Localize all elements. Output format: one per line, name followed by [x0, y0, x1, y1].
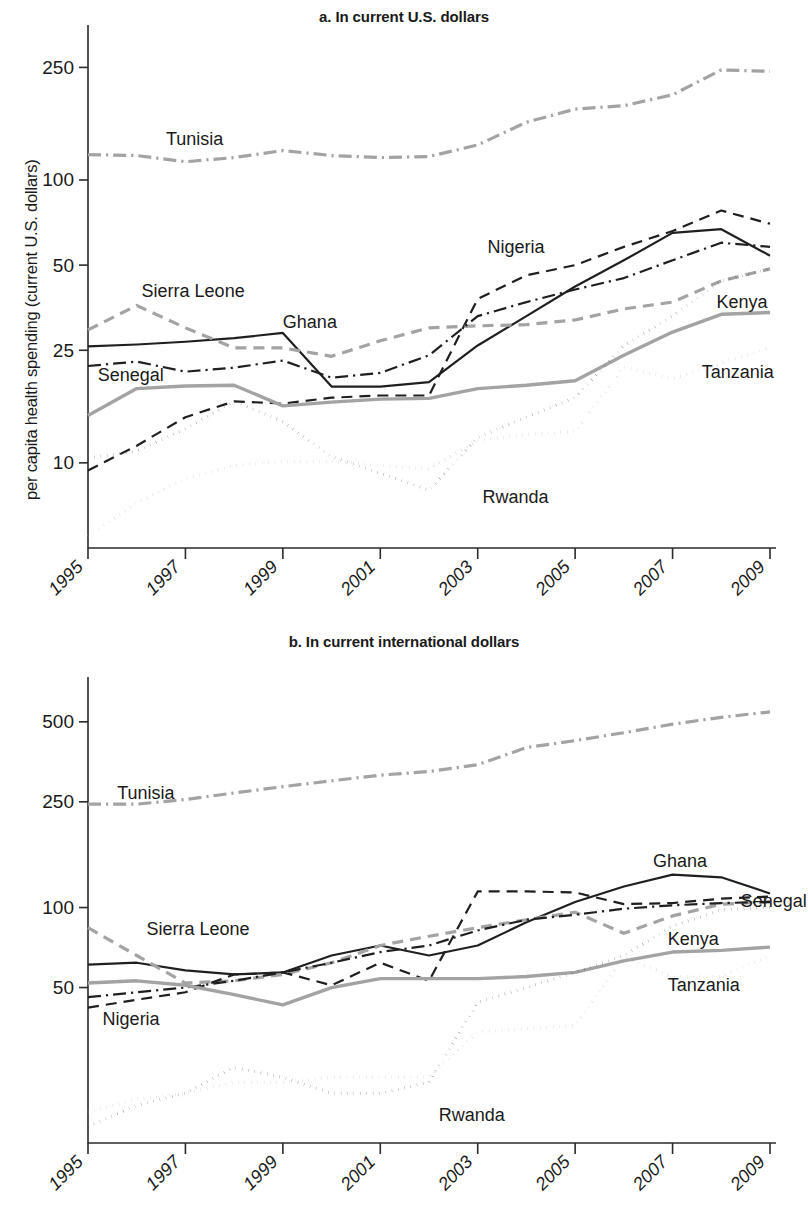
series-label-nigeria: Nigeria: [103, 1009, 161, 1029]
y-tick-label: 50: [53, 977, 74, 998]
x-tick-label: 2007: [628, 1151, 672, 1195]
x-tick-label: 2005: [531, 556, 575, 600]
x-tick-label: 1995: [44, 556, 87, 599]
x-tick-label: 2001: [336, 557, 379, 600]
x-tick-label: 1997: [142, 1151, 185, 1194]
x-tick-label: 1995: [44, 1151, 87, 1194]
y-tick-label: 250: [42, 57, 74, 78]
x-tick-label: 2003: [433, 557, 476, 600]
x-tick-label: 2009: [726, 1152, 769, 1195]
series-label-kenya: Kenya: [668, 929, 720, 949]
series-label-kenya: Kenya: [716, 292, 768, 312]
series-label-sierra-leone: Sierra Leone: [146, 919, 249, 939]
x-tick-label: 1999: [239, 557, 281, 599]
series-label-ghana: Ghana: [653, 851, 708, 871]
y-tick-label: 500: [42, 711, 74, 732]
series-label-ghana: Ghana: [283, 312, 338, 332]
series-line-ghana: [88, 229, 770, 386]
y-tick-label: 50: [53, 255, 74, 276]
panel-b-plot: 5010025050019951997199920012003200520072…: [0, 615, 808, 1230]
x-tick-label: 2001: [336, 1152, 379, 1195]
x-tick-label: 2009: [726, 557, 769, 600]
x-tick-label: 1999: [239, 1152, 281, 1194]
series-label-senegal: Senegal: [741, 891, 807, 911]
series-label-sierra-leone: Sierra Leone: [142, 281, 245, 301]
x-tick-label: 2005: [531, 1151, 575, 1195]
y-tick-label: 10: [53, 452, 74, 473]
y-tick-label: 250: [42, 791, 74, 812]
panel-current-us-dollars: a. In current U.S. dollars per capita he…: [0, 0, 808, 615]
series-label-tanzania: Tanzania: [702, 362, 775, 382]
series-line-senegal: [88, 243, 770, 378]
series-label-rwanda: Rwanda: [439, 1105, 506, 1125]
series-label-senegal: Senegal: [98, 365, 164, 385]
y-tick-label: 100: [42, 169, 74, 190]
series-line-tanzania: [88, 348, 770, 536]
series-label-tanzania: Tanzania: [668, 975, 741, 995]
x-tick-label: 2003: [433, 1152, 476, 1195]
series-label-rwanda: Rwanda: [483, 487, 550, 507]
series-line-tunisia: [88, 712, 770, 804]
panel-current-international-dollars: b. In current international dollars per …: [0, 615, 808, 1230]
x-tick-label: 1997: [142, 556, 185, 599]
y-tick-label: 25: [53, 340, 74, 361]
y-tick-label: 100: [42, 897, 74, 918]
series-label-nigeria: Nigeria: [487, 237, 545, 257]
panel-a-plot: 1025501002501995199719992001200320052007…: [0, 0, 808, 615]
series-label-tunisia: Tunisia: [166, 129, 224, 149]
x-tick-label: 2007: [628, 556, 672, 600]
series-label-tunisia: Tunisia: [117, 783, 175, 803]
